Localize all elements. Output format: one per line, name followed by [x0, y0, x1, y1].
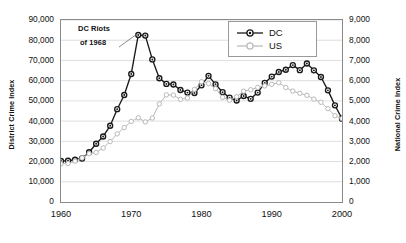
- marker-core-1996: [313, 69, 315, 71]
- marker-core-1979: [194, 92, 196, 94]
- right-tick-4: 4,000: [349, 117, 395, 126]
- crime-index-chart: District Crime Index National Crime Inde…: [0, 0, 406, 243]
- marker-core-1995: [306, 63, 308, 65]
- marker-core-1993: [292, 64, 294, 66]
- legend-label-us: US: [269, 40, 282, 51]
- left-tick-2: 20,000: [8, 157, 54, 166]
- marker-core-1982: [215, 83, 217, 85]
- left-tick-8: 80,000: [8, 36, 54, 45]
- marker-core-1987: [250, 98, 252, 100]
- marker-core-1998: [327, 89, 329, 91]
- marker-us-1961: [66, 161, 70, 165]
- left-tick-7: 70,000: [8, 56, 54, 65]
- marker-us-1994: [298, 91, 302, 95]
- right-tick-9: 9,000: [349, 15, 395, 24]
- marker-core-1970: [130, 73, 132, 75]
- marker-core-1977: [179, 89, 181, 91]
- marker-us-1996: [312, 97, 316, 101]
- marker-us-1966: [101, 146, 105, 150]
- marker-core-1973: [151, 58, 153, 60]
- marker-core-1986: [243, 95, 245, 97]
- marker-core-1990: [271, 76, 273, 78]
- marker-us-1991: [277, 81, 281, 85]
- marker-us-1983: [220, 95, 224, 99]
- marker-us-1975: [164, 93, 168, 97]
- right-tick-2: 2,000: [349, 157, 395, 166]
- marker-us-1977: [178, 97, 182, 101]
- marker-core-1967: [109, 125, 111, 127]
- marker-core-1972: [144, 35, 146, 37]
- marker-us-1963: [80, 156, 84, 160]
- marker-core-1966: [102, 136, 104, 138]
- marker-us-1973: [150, 116, 154, 120]
- marker-core-1975: [165, 83, 167, 85]
- marker-us-1968: [115, 132, 119, 136]
- marker-us-1980: [199, 79, 203, 83]
- marker-us-1990: [270, 82, 274, 86]
- left-tick-5: 50,000: [8, 96, 54, 105]
- marker-us-1984: [227, 98, 231, 102]
- x-tick-2: 1980: [179, 210, 225, 219]
- marker-core-1981: [208, 75, 210, 77]
- marker-us-1985: [234, 95, 238, 99]
- right-tick-6: 6,000: [349, 76, 395, 85]
- marker-us-1992: [284, 85, 288, 89]
- marker-us-1967: [108, 139, 112, 143]
- marker-us-1962: [73, 159, 77, 163]
- series-markers-us: [61, 79, 342, 166]
- marker-us-1998: [326, 106, 330, 110]
- marker-core-1965: [95, 143, 97, 145]
- marker-us-1989: [263, 84, 267, 88]
- legend-swatch-us: [237, 43, 263, 49]
- x-tick-1: 1970: [108, 210, 154, 219]
- marker-us-1995: [305, 93, 309, 97]
- marker-core-1988: [257, 92, 259, 94]
- right-tick-1: 1,000: [349, 177, 395, 186]
- marker-us-1964: [87, 152, 91, 156]
- left-tick-3: 30,000: [8, 137, 54, 146]
- marker-core-1971: [137, 34, 139, 36]
- right-tick-7: 7,000: [349, 56, 395, 65]
- marker-core-1991: [278, 71, 280, 73]
- right-tick-0: 0: [349, 197, 395, 206]
- marker-us-1972: [143, 120, 147, 124]
- marker-core-1974: [158, 77, 160, 79]
- marker-us-2000: [340, 116, 342, 120]
- marker-us-1979: [192, 87, 196, 91]
- marker-core-1994: [299, 69, 301, 71]
- marker-core-1980: [201, 84, 203, 86]
- right-tick-3: 3,000: [349, 137, 395, 146]
- marker-us-1965: [94, 150, 98, 154]
- marker-us-1976: [171, 93, 175, 97]
- left-tick-1: 10,000: [8, 177, 54, 186]
- marker-core-1985: [236, 100, 238, 102]
- right-tick-5: 5,000: [349, 96, 395, 105]
- marker-us-1982: [213, 86, 217, 90]
- legend-label-dc: DC: [269, 27, 283, 38]
- marker-core-1968: [116, 108, 118, 110]
- marker-core-1997: [320, 76, 322, 78]
- marker-us-1981: [206, 81, 210, 85]
- left-tick-6: 60,000: [8, 76, 54, 85]
- legend: DC US: [228, 21, 317, 57]
- marker-us-1960: [61, 162, 63, 166]
- marker-us-1999: [333, 114, 337, 118]
- right-tick-8: 8,000: [349, 36, 395, 45]
- marker-core-1992: [285, 69, 287, 71]
- x-tick-3: 1990: [249, 210, 295, 219]
- marker-us-1988: [256, 85, 260, 89]
- marker-core-1983: [222, 91, 224, 93]
- x-tick-0: 1960: [38, 210, 84, 219]
- marker-us-1987: [248, 88, 252, 92]
- marker-us-1993: [291, 89, 295, 93]
- marker-us-1978: [185, 96, 189, 100]
- annotation-dc-riots-line1: DC Riots: [78, 24, 110, 33]
- marker-us-1971: [136, 116, 140, 120]
- marker-us-1986: [241, 89, 245, 93]
- marker-us-1969: [122, 125, 126, 129]
- left-tick-4: 40,000: [8, 117, 54, 126]
- left-tick-9: 90,000: [8, 15, 54, 24]
- legend-swatch-dc: [237, 30, 263, 36]
- annotation-dc-riots-line2: of 1968: [80, 38, 106, 47]
- marker-us-1974: [157, 102, 161, 106]
